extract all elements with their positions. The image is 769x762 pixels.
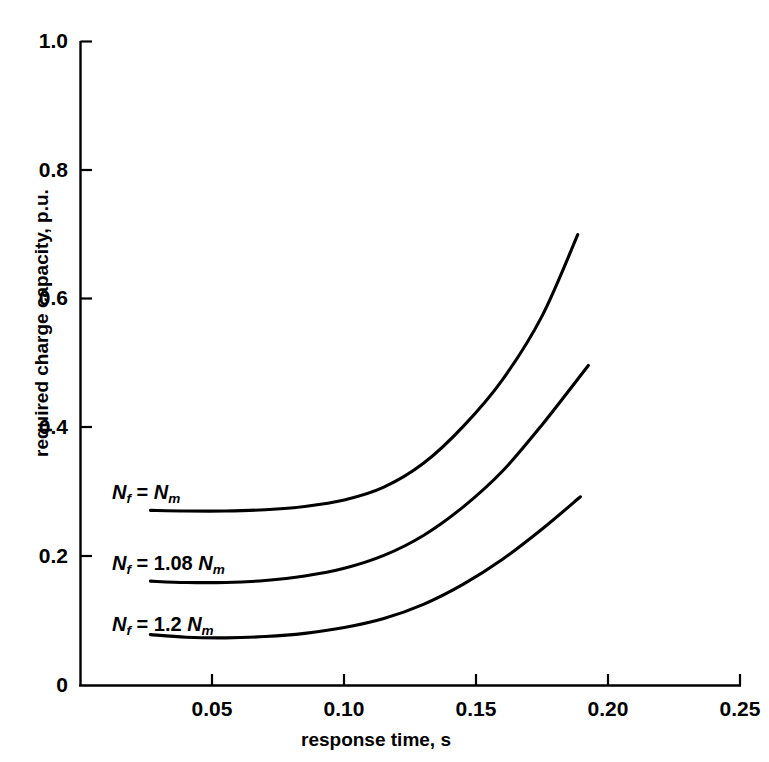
y-axis-title: required charge capacity, p.u. — [31, 189, 53, 457]
plot-canvas — [0, 0, 769, 762]
x-tick-label-0-20: 0.20 — [558, 697, 658, 721]
x-tick-label-0-25: 0.25 — [690, 697, 769, 721]
x-axis-title: response time, s — [266, 729, 486, 751]
chart-figure: 1.0 0.8 0.6 0.4 0.2 0 0.05 0.10 0.15 0.2… — [0, 0, 769, 762]
x-tick-label-0-05: 0.05 — [162, 697, 262, 721]
curve-nf-eq-nm — [150, 235, 577, 511]
data-curves — [150, 235, 588, 638]
curve-label-nf-eq-nm: Nf = Nm — [112, 481, 180, 506]
x-axis-ticks — [212, 674, 740, 686]
curve-label-nf-eq-1-08-nm: Nf = 1.08 Nm — [112, 552, 225, 577]
y-axis-ticks — [81, 42, 93, 557]
curve-label-nf-eq-1-2-nm: Nf = 1.2 Nm — [112, 613, 214, 638]
y-tick-label-0-8: 0.8 — [8, 158, 68, 182]
curve-nf-eq-1-08-nm — [150, 365, 588, 582]
y-tick-label-1-0: 1.0 — [8, 29, 68, 53]
x-tick-label-0-15: 0.15 — [426, 697, 526, 721]
y-tick-label-0-2: 0.2 — [8, 544, 68, 568]
x-tick-label-0-10: 0.10 — [294, 697, 394, 721]
y-tick-label-0: 0 — [8, 673, 68, 697]
